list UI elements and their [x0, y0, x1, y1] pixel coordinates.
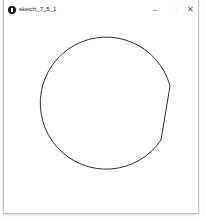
sketch-canvas — [0, 0, 206, 219]
circle-shape — [40, 37, 170, 169]
